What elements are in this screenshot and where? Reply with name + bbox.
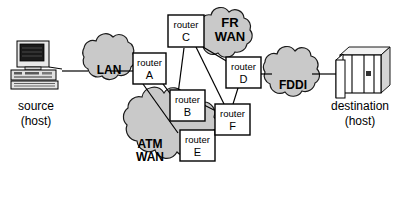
cloud-label-fr-wan-line1: FR <box>221 15 239 30</box>
router-d-label-line1: router <box>231 61 256 72</box>
router-a-label-line1: router <box>137 57 162 68</box>
cloud-lan: LAN <box>83 34 135 80</box>
router-e-label-line2: E <box>194 146 201 158</box>
source-host-label-line2: (host) <box>21 114 52 128</box>
server-stack-icon: destination (host) <box>331 47 390 128</box>
router-b-label-line1: router <box>175 94 200 105</box>
router-e[interactable]: router E <box>180 130 215 161</box>
router-d-label-line2: D <box>240 73 248 85</box>
link-router-b-router-c <box>178 48 184 94</box>
router-c[interactable]: router C <box>168 15 204 47</box>
cloud-fr-wan: FR WAN <box>197 8 252 58</box>
destination-host-label-line2: (host) <box>345 114 376 128</box>
diagram-canvas: LAN FR WAN ATM WAN FDDI <box>0 0 401 201</box>
cloud-label-lan: LAN <box>97 63 122 77</box>
cloud-label-atm-wan-line1: ATM <box>137 137 162 151</box>
cloud-label-fr-wan-line2: WAN <box>215 29 245 44</box>
cloud-label-fddi: FDDI <box>279 78 307 92</box>
destination-host-label-line1: destination <box>331 99 389 113</box>
router-c-label-line2: C <box>182 31 190 43</box>
cloud-label-atm-wan-line2: WAN <box>136 150 164 164</box>
router-b-label-line2: B <box>184 106 191 118</box>
router-c-label-line1: router <box>174 19 199 30</box>
router-f[interactable]: router F <box>215 104 250 135</box>
cloud-fddi: FDDI <box>263 47 319 97</box>
router-a[interactable]: router A <box>133 53 166 84</box>
router-b[interactable]: router B <box>170 90 205 121</box>
link-router-d-router-f <box>233 88 238 104</box>
source-host-label-line1: source <box>18 99 54 113</box>
router-f-label-line1: router <box>220 108 245 119</box>
router-f-label-line2: F <box>229 120 236 132</box>
router-e-label-line1: router <box>185 134 210 145</box>
desktop-computer-icon: source (host) <box>11 41 62 128</box>
network-diagram: LAN FR WAN ATM WAN FDDI <box>0 0 401 201</box>
router-a-label-line2: A <box>146 69 154 81</box>
router-d[interactable]: router D <box>226 57 261 88</box>
